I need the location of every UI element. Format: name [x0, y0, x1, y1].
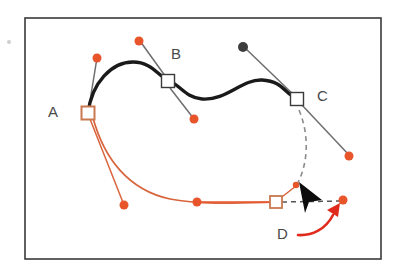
control-dot-c-lower[interactable] — [345, 152, 354, 161]
control-dot-a-upper[interactable] — [93, 54, 102, 63]
label-c: C — [317, 87, 328, 104]
control-dot-b-lower[interactable] — [190, 115, 199, 124]
stray-gray-dot — [7, 40, 11, 44]
label-b: B — [171, 45, 181, 62]
control-dot-d-incoming[interactable] — [293, 182, 299, 188]
control-dot-on-path[interactable] — [193, 198, 202, 207]
control-dot-c-upper[interactable] — [238, 42, 248, 52]
bezier-illustration-svg: A B C D — [0, 0, 403, 275]
illustration-root: A B C D — [0, 0, 403, 275]
label-a: A — [48, 103, 58, 120]
control-dot-a-lower[interactable] — [120, 201, 129, 210]
control-dot-b-upper[interactable] — [135, 37, 144, 46]
anchor-point-a[interactable] — [82, 107, 95, 120]
anchor-point-c[interactable] — [291, 93, 304, 106]
anchor-point-b[interactable] — [162, 75, 175, 88]
anchor-point-d[interactable] — [270, 196, 282, 208]
label-d: D — [277, 225, 288, 242]
